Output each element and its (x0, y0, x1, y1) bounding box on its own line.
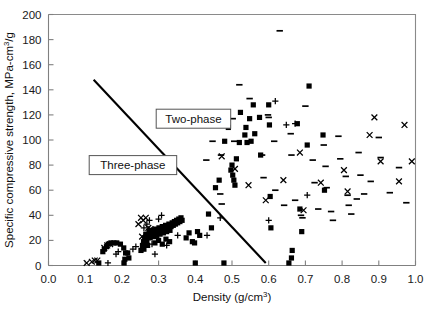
y-tick-label: 0 (35, 260, 41, 272)
marker-square (230, 173, 235, 178)
marker-x (263, 197, 269, 203)
marker-square (252, 131, 257, 136)
x-tick-label: 0.3 (151, 273, 167, 285)
annotation-label: Two-phase (165, 113, 221, 125)
marker-square (179, 218, 184, 223)
marker-x (280, 177, 286, 183)
marker-square (234, 156, 239, 161)
marker-x (345, 189, 351, 195)
marker-square (231, 178, 236, 183)
marker-square (184, 235, 189, 240)
marker-square (222, 139, 227, 144)
marker-square (268, 225, 273, 230)
marker-plus (158, 212, 164, 218)
y-tick-label: 40 (29, 209, 42, 221)
marker-x (318, 180, 324, 186)
x-tick-label: 0.4 (187, 273, 204, 285)
y-tick-label: 20 (29, 234, 42, 246)
marker-square (125, 250, 130, 255)
marker-square (232, 183, 237, 188)
data-points (84, 31, 415, 266)
y-tick-label: 160 (22, 59, 41, 71)
marker-square (247, 116, 252, 121)
marker-square (267, 122, 272, 127)
marker-plus (204, 232, 210, 238)
axes: 0204060801001201401601802000.00.10.20.30… (22, 9, 423, 285)
marker-square (186, 230, 191, 235)
y-tick-label: 100 (22, 134, 41, 146)
annotation-two-phase: Two-phase (156, 109, 231, 128)
marker-square (206, 211, 211, 216)
marker-square (221, 260, 226, 265)
marker-plus (156, 216, 162, 222)
x-tick-label: 0.0 (41, 273, 57, 285)
x-tick-label: 0.1 (77, 273, 93, 285)
marker-square (305, 142, 310, 147)
marker-square (217, 178, 222, 183)
x-tick-label: 1.0 (408, 273, 424, 285)
marker-square (209, 225, 214, 230)
series-cross-x (84, 115, 415, 266)
marker-x (372, 115, 378, 121)
y-tick-label: 140 (22, 84, 41, 96)
y-axis-title: Specific compressive strength, MPa-cm3/g (2, 32, 15, 248)
y-tick-label: 200 (22, 9, 41, 21)
marker-square (242, 132, 247, 137)
marker-plus (272, 98, 278, 104)
marker-square (286, 260, 291, 265)
marker-square (320, 132, 325, 137)
marker-square (238, 110, 243, 115)
y-tick-label: 120 (22, 109, 41, 121)
marker-square (197, 233, 202, 238)
marker-x (396, 179, 402, 185)
annotation-three-phase: Three-phase (89, 156, 177, 175)
marker-square (266, 102, 271, 107)
x-tick-label: 0.2 (114, 273, 130, 285)
marker-x (402, 122, 408, 128)
chart-figure: 0204060801001201401601802000.00.10.20.30… (0, 0, 428, 314)
marker-plus (152, 251, 158, 257)
marker-square (289, 255, 294, 260)
marker-square (248, 139, 253, 144)
marker-square (193, 260, 198, 265)
marker-square (306, 83, 311, 88)
marker-plus (175, 232, 181, 238)
marker-x (246, 182, 252, 188)
marker-square (237, 140, 242, 145)
marker-x (409, 158, 415, 164)
marker-square (290, 248, 295, 253)
marker-square (213, 185, 218, 190)
y-tick-label: 180 (22, 34, 41, 46)
marker-plus (283, 122, 289, 128)
marker-x (341, 167, 347, 173)
marker-x (367, 132, 373, 138)
annotation-label: Three-phase (100, 159, 165, 171)
x-tick-label: 0.5 (224, 273, 240, 285)
marker-x (136, 221, 142, 227)
marker-x (297, 150, 303, 156)
marker-square (167, 239, 172, 244)
marker-square (192, 240, 197, 245)
marker-square (257, 115, 262, 120)
marker-x (378, 158, 384, 164)
series-dash (203, 31, 409, 221)
y-tick-label: 60 (29, 184, 42, 196)
y-tick-label: 80 (29, 159, 42, 171)
marker-square (251, 102, 256, 107)
marker-plus (266, 217, 272, 223)
x-axis-title: Density (g/cm3) (193, 290, 272, 303)
x-tick-label: 0.9 (371, 273, 387, 285)
marker-square (141, 247, 146, 252)
x-tick-label: 0.7 (297, 273, 313, 285)
marker-plus (304, 192, 310, 198)
marker-square (243, 125, 248, 130)
x-tick-label: 0.6 (261, 273, 277, 285)
marker-square (126, 255, 131, 260)
x-tick-label: 0.8 (334, 273, 350, 285)
marker-square (299, 229, 304, 234)
scatter-plot: 0204060801001201401601802000.00.10.20.30… (0, 0, 428, 314)
